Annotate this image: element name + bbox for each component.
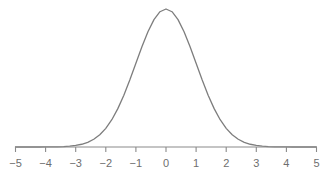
x-axis-ticks bbox=[16, 147, 317, 152]
x-axis-tick-label: −2 bbox=[94, 158, 118, 169]
x-axis-tick-label: −1 bbox=[124, 158, 148, 169]
x-axis-tick-label: 0 bbox=[154, 158, 178, 169]
x-axis-tick-label: 1 bbox=[184, 158, 208, 169]
x-axis-tick-label: −4 bbox=[34, 158, 58, 169]
normal-distribution-figure: −5−4−3−2−1012345 bbox=[0, 0, 332, 178]
x-axis-tick-label: 2 bbox=[214, 158, 238, 169]
x-axis-tick-label: −3 bbox=[64, 158, 88, 169]
curve-group bbox=[16, 9, 317, 147]
x-axis-tick-label: 3 bbox=[244, 158, 268, 169]
x-axis-tick-label: −5 bbox=[4, 158, 28, 169]
x-axis-tick-label: 5 bbox=[305, 158, 329, 169]
x-axis-group bbox=[15, 147, 317, 152]
plot-canvas bbox=[0, 0, 332, 178]
x-axis-tick-label: 4 bbox=[274, 158, 298, 169]
bell-curve-path bbox=[16, 9, 317, 147]
